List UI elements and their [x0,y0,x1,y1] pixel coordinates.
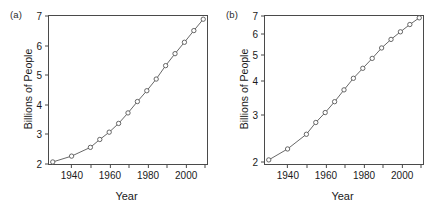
data-point [285,147,289,151]
y-tick: 3 [248,109,265,120]
x-tick-mark [90,164,91,168]
x-tick-label: 1980 [137,170,159,181]
data-point [323,110,327,114]
data-point [379,46,383,50]
panel-b: (b) Billions of People 234567 1940196019… [216,0,432,214]
y-tick-label: 3 [248,109,258,120]
panel-b-xlabel: Year [260,190,425,202]
x-tick: 2000 [175,164,197,181]
data-point [267,158,271,162]
data-point [107,130,111,134]
y-tick-label: 2 [32,158,42,169]
y-tick: 2 [248,156,265,167]
data-point [370,56,374,60]
panel-b-series [265,16,423,164]
data-point [417,16,421,20]
x-tick-minor [421,164,422,168]
x-tick-mark [205,164,206,168]
panel-a-ylabel-wrap: Billions of People [9,14,23,164]
x-tick: 1940 [61,164,83,181]
y-tick-label: 7 [32,11,42,22]
x-tick-mark [167,164,168,168]
y-tick-label: 6 [248,28,258,39]
x-tick-label: 1980 [353,170,375,181]
x-tick-minor [167,164,168,168]
x-tick-minor [345,164,346,168]
data-point [116,121,120,125]
x-tick-minor [306,164,307,168]
panel-b-plot-area: 234567 1940196019802000 [264,15,424,165]
y-tick: 7 [248,11,265,22]
panel-a: (a) Billions of People 234567 1940196019… [0,0,216,214]
data-point [182,40,186,44]
x-tick-mark [421,164,422,168]
panel-a-plot-area: 234567 1940196019802000 [48,15,208,165]
x-tick-mark [186,164,187,168]
data-point [304,132,308,136]
x-tick-mark [306,164,307,168]
y-tick: 3 [32,129,49,140]
y-tick: 6 [32,40,49,51]
y-tick-label: 4 [32,99,42,110]
x-tick-mark [364,164,365,168]
data-point [351,76,355,80]
x-tick-label: 1940 [61,170,83,181]
x-tick-label: 1940 [277,170,299,181]
x-tick-mark [345,164,346,168]
x-tick-mark [109,164,110,168]
y-tick-label: 5 [248,50,258,61]
x-tick-mark [325,164,326,168]
x-tick-mark [71,164,72,168]
data-point [145,89,149,93]
panel-a-xlabel: Year [44,190,209,202]
data-point [398,30,402,34]
x-tick-minor [205,164,206,168]
x-tick: 1940 [277,164,299,181]
data-point [126,111,130,115]
data-point [154,77,158,81]
panel-a-series [49,16,207,164]
y-tick: 7 [32,11,49,22]
panel-b-ylabel-wrap: Billions of People [225,14,239,164]
y-tick: 6 [248,28,265,39]
data-point [173,51,177,55]
data-point [192,28,196,32]
y-tick-label: 6 [32,40,42,51]
x-tick: 1960 [99,164,121,181]
data-point [135,99,139,103]
y-tick: 4 [32,99,49,110]
x-tick-label: 2000 [391,170,413,181]
x-tick-mark [287,164,288,168]
x-tick: 1960 [315,164,337,181]
x-tick-minor [90,164,91,168]
x-tick: 1980 [353,164,375,181]
data-point [51,160,55,164]
y-tick-label: 4 [248,76,258,87]
y-tick: 4 [248,76,265,87]
data-point [332,100,336,104]
x-tick-mark [129,164,130,168]
x-tick-mark [383,164,384,168]
x-tick-label: 1960 [315,170,337,181]
data-point [408,22,412,26]
data-point [342,88,346,92]
y-tick-label: 3 [32,129,42,140]
x-tick-label: 1960 [99,170,121,181]
x-tick-minor [383,164,384,168]
y-tick: 5 [32,70,49,81]
y-tick-label: 2 [248,156,258,167]
panel-b-ylabel: Billions of People [238,24,250,154]
x-tick: 2000 [391,164,413,181]
data-point [98,137,102,141]
x-tick-minor [129,164,130,168]
x-tick-label: 2000 [175,170,197,181]
data-point [389,37,393,41]
x-tick-mark [402,164,403,168]
series-line [53,19,203,162]
data-point [69,154,73,158]
figure-two-panel-population: (a) Billions of People 234567 1940196019… [0,0,432,214]
data-point [314,120,318,124]
x-tick-mark [148,164,149,168]
y-tick: 2 [32,158,49,169]
y-tick-label: 7 [248,11,258,22]
